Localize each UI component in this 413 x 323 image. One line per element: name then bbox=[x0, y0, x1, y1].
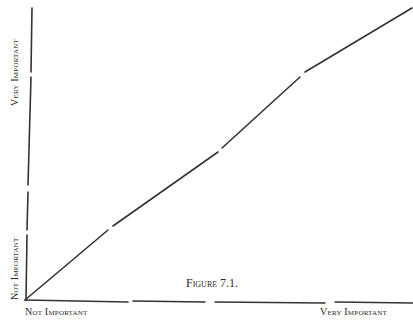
x-axis-low-label: Not Important bbox=[25, 306, 88, 317]
axes-and-line bbox=[0, 0, 413, 323]
y-axis-low-label: Not Important bbox=[9, 237, 20, 300]
x-axis-segment bbox=[133, 301, 205, 302]
y-axis-segment bbox=[26, 235, 27, 300]
figure-caption: Figure 7.1. bbox=[186, 276, 238, 291]
x-axis-high-label: Very Important bbox=[320, 306, 387, 317]
x-axis-segment bbox=[215, 302, 325, 303]
y-axis-high-label: Very Important bbox=[9, 39, 20, 106]
figure-diagram: Very Important Not Important Not Importa… bbox=[0, 0, 413, 323]
x-axis-segment bbox=[335, 302, 413, 303]
diagonal-line bbox=[305, 8, 412, 72]
x-axis-segment bbox=[25, 300, 128, 302]
diagonal-line bbox=[222, 77, 300, 148]
y-axis-segment bbox=[27, 192, 28, 230]
y-axis-segment bbox=[31, 8, 32, 72]
diagonal-line bbox=[113, 152, 218, 226]
diagonal-line bbox=[25, 230, 108, 300]
y-axis-segment bbox=[28, 77, 31, 185]
